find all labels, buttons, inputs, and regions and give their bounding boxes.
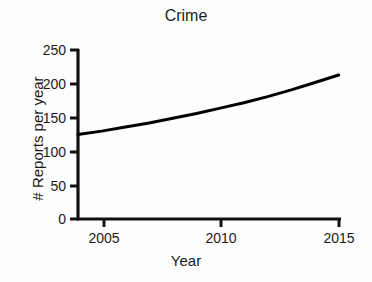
x-tick-label-2015: 2015 [309,230,369,246]
x-axis-label: Year [0,252,372,269]
chart-figure: Crime 250 200 150 100 50 0 2005 2010 201… [0,0,372,282]
series-line-crime-reports [78,75,339,134]
x-tick-label-2005: 2005 [74,230,134,246]
y-axis-label: # Reports per year [29,39,46,239]
x-tick-label-2010: 2010 [191,230,251,246]
